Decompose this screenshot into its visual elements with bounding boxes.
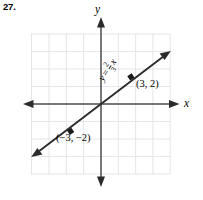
point-label-3-2: (3, 2) <box>136 79 159 90</box>
y-axis-arrow-up-icon <box>97 17 105 28</box>
coordinate-plane-svg <box>0 0 203 200</box>
x-axis-arrow-right-icon <box>169 100 180 108</box>
x-axis-arrow-left-icon <box>23 100 34 108</box>
y-axis-label: y <box>95 4 100 16</box>
graph-figure: 27. y x (3, 2) (−3, −2) y = 2 3 x <box>0 0 203 200</box>
point-label-neg3-neg2: (−3, −2) <box>56 133 91 144</box>
problem-number: 27. <box>3 2 16 12</box>
y-axis-arrow-down-icon <box>97 177 105 188</box>
x-axis-label: x <box>184 98 189 110</box>
